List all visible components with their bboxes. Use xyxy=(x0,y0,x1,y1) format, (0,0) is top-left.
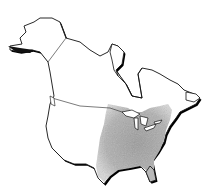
landmass xyxy=(8,18,200,184)
north-america-map xyxy=(0,0,214,196)
